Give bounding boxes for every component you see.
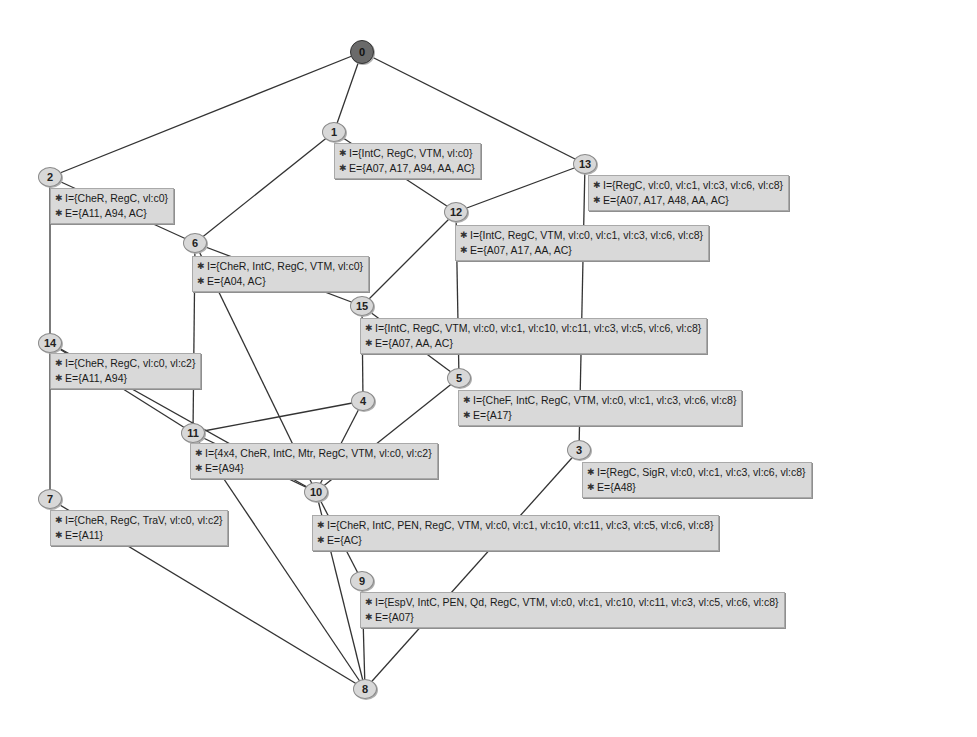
intent-text: I={CheR, IntC, RegC, VTM, vl:c0}	[207, 259, 363, 274]
extent-row: ✱E={A48}	[586, 480, 806, 495]
bug-icon: ✱	[364, 321, 373, 336]
concept-label-9[interactable]: ✱I={EspV, IntC, PEN, Qd, RegC, VTM, vl:c…	[360, 592, 785, 628]
intent-text: I={CheR, IntC, PEN, RegC, VTM, vl:c0, vl…	[327, 518, 713, 533]
bug-icon: ✱	[54, 528, 63, 543]
intent-text: I={IntC, RegC, VTM, vl:c0, vl:c1, vl:c3,…	[470, 228, 703, 243]
extent-text: E={A04, AC}	[207, 274, 266, 289]
concept-label-11[interactable]: ✱I={4x4, CheR, IntC, Mtr, RegC, VTM, vl:…	[190, 443, 438, 479]
extent-row: ✱E={A94}	[194, 461, 432, 476]
concept-label-7[interactable]: ✱I={CheR, RegC, TraV, vl:c0, vl:c2}✱E={A…	[50, 510, 228, 546]
intent-row: ✱I={IntC, RegC, VTM, vl:c0}	[338, 146, 475, 161]
concept-label-13[interactable]: ✱I={RegC, vl:c0, vl:c1, vl:c3, vl:c6, vl…	[588, 175, 789, 211]
intent-text: I={CheR, RegC, TraV, vl:c0, vl:c2}	[65, 513, 222, 528]
bug-icon: ✱	[194, 461, 203, 476]
intent-text: I={IntC, RegC, VTM, vl:c0}	[349, 146, 472, 161]
extent-text: E={A94}	[205, 461, 244, 476]
lattice-diagram: ✱I={IntC, RegC, VTM, vl:c0}✱E={A07, A17,…	[0, 0, 977, 737]
concept-label-1[interactable]: ✱I={IntC, RegC, VTM, vl:c0}✱E={A07, A17,…	[334, 143, 481, 179]
concept-label-5[interactable]: ✱I={CheF, IntC, RegC, VTM, vl:c0, vl:c1,…	[458, 390, 742, 426]
concept-label-12[interactable]: ✱I={IntC, RegC, VTM, vl:c0, vl:c1, vl:c3…	[455, 225, 709, 261]
bug-icon: ✱	[316, 533, 325, 548]
bug-icon: ✱	[54, 356, 63, 371]
concept-label-15[interactable]: ✱I={IntC, RegC, VTM, vl:c0, vl:c1, vl:c1…	[360, 318, 707, 354]
intent-row: ✱I={CheR, IntC, RegC, VTM, vl:c0}	[196, 259, 363, 274]
extent-row: ✱E={A11, A94}	[54, 371, 195, 386]
bug-icon: ✱	[364, 610, 373, 625]
lattice-node-13[interactable]: 13	[573, 154, 597, 174]
extent-text: E={A11}	[65, 528, 103, 543]
bug-icon: ✱	[592, 178, 601, 193]
intent-row: ✱I={EspV, IntC, PEN, Qd, RegC, VTM, vl:c…	[364, 595, 779, 610]
intent-row: ✱I={CheR, RegC, vl:c0}	[54, 191, 168, 206]
extent-text: E={A07, A17, A94, AA, AC}	[349, 161, 475, 176]
bug-icon: ✱	[364, 336, 373, 351]
bug-icon: ✱	[462, 408, 471, 423]
intent-text: I={CheR, RegC, vl:c0, vl:c2}	[65, 356, 195, 371]
extent-row: ✱E={A11, A94, AC}	[54, 206, 168, 221]
extent-row: ✱E={A07, A17, A48, AA, AC}	[592, 193, 783, 208]
edge-0-1	[334, 52, 362, 132]
extent-row: ✱E={A07, AA, AC}	[364, 336, 701, 351]
extent-text: E={A48}	[597, 480, 636, 495]
lattice-node-5[interactable]: 5	[447, 368, 471, 388]
lattice-node-11[interactable]: 11	[181, 423, 205, 443]
concept-label-6[interactable]: ✱I={CheR, IntC, RegC, VTM, vl:c0}✱E={A04…	[192, 256, 369, 292]
extent-row: ✱E={AC}	[316, 533, 713, 548]
concept-label-3[interactable]: ✱I={RegC, SigR, vl:c0, vl:c1, vl:c3, vl:…	[582, 462, 812, 498]
lattice-node-6[interactable]: 6	[183, 233, 207, 253]
lattice-node-1[interactable]: 1	[322, 122, 346, 142]
concept-label-2[interactable]: ✱I={CheR, RegC, vl:c0}✱E={A11, A94, AC}	[50, 188, 174, 224]
lattice-node-3[interactable]: 3	[567, 440, 591, 460]
intent-text: I={IntC, RegC, VTM, vl:c0, vl:c1, vl:c10…	[375, 321, 701, 336]
lattice-node-10[interactable]: 10	[304, 482, 328, 502]
intent-row: ✱I={CheR, RegC, TraV, vl:c0, vl:c2}	[54, 513, 222, 528]
concept-label-14[interactable]: ✱I={CheR, RegC, vl:c0, vl:c2}✱E={A11, A9…	[50, 353, 201, 389]
bug-icon: ✱	[338, 161, 347, 176]
lattice-node-4[interactable]: 4	[351, 391, 375, 411]
extent-text: E={A17}	[473, 408, 512, 423]
bug-icon: ✱	[194, 446, 203, 461]
extent-text: E={A11, A94}	[65, 371, 127, 386]
bug-icon: ✱	[586, 480, 595, 495]
lattice-node-9[interactable]: 9	[350, 571, 374, 591]
extent-text: E={A11, A94, AC}	[65, 206, 147, 221]
intent-row: ✱I={CheR, IntC, PEN, RegC, VTM, vl:c0, v…	[316, 518, 713, 533]
extent-text: E={A07, A17, AA, AC}	[470, 243, 572, 258]
extent-text: E={A07, A17, A48, AA, AC}	[603, 193, 729, 208]
edge-4-11	[193, 401, 363, 433]
bug-icon: ✱	[196, 259, 205, 274]
edge-1-6	[195, 132, 334, 243]
intent-text: I={CheR, RegC, vl:c0}	[65, 191, 168, 206]
lattice-node-2[interactable]: 2	[38, 167, 62, 187]
extent-row: ✱E={A04, AC}	[196, 274, 363, 289]
bug-icon: ✱	[196, 274, 205, 289]
intent-text: I={4x4, CheR, IntC, Mtr, RegC, VTM, vl:c…	[205, 446, 432, 461]
bug-icon: ✱	[586, 465, 595, 480]
lattice-node-7[interactable]: 7	[38, 489, 62, 509]
extent-row: ✱E={A07, A17, A94, AA, AC}	[338, 161, 475, 176]
concept-label-10[interactable]: ✱I={CheR, IntC, PEN, RegC, VTM, vl:c0, v…	[312, 515, 719, 551]
extent-row: ✱E={A17}	[462, 408, 736, 423]
intent-text: I={EspV, IntC, PEN, Qd, RegC, VTM, vl:c0…	[375, 595, 779, 610]
lattice-node-0[interactable]: 0	[350, 40, 374, 64]
intent-row: ✱I={IntC, RegC, VTM, vl:c0, vl:c1, vl:c3…	[459, 228, 703, 243]
lattice-node-8[interactable]: 8	[353, 679, 377, 699]
lattice-node-12[interactable]: 12	[444, 202, 468, 222]
bug-icon: ✱	[459, 243, 468, 258]
extent-row: ✱E={A07}	[364, 610, 779, 625]
intent-text: I={RegC, vl:c0, vl:c1, vl:c3, vl:c6, vl:…	[603, 178, 783, 193]
bug-icon: ✱	[54, 206, 63, 221]
bug-icon: ✱	[54, 191, 63, 206]
edge-0-2	[50, 52, 362, 177]
intent-text: I={CheF, IntC, RegC, VTM, vl:c0, vl:c1, …	[473, 393, 736, 408]
intent-row: ✱I={CheF, IntC, RegC, VTM, vl:c0, vl:c1,…	[462, 393, 736, 408]
bug-icon: ✱	[459, 228, 468, 243]
edge-12-15	[362, 212, 456, 306]
lattice-node-15[interactable]: 15	[350, 296, 374, 316]
bug-icon: ✱	[316, 518, 325, 533]
intent-row: ✱I={RegC, SigR, vl:c0, vl:c1, vl:c3, vl:…	[586, 465, 806, 480]
lattice-node-14[interactable]: 14	[38, 333, 62, 353]
edge-3-8	[365, 450, 579, 689]
bug-icon: ✱	[338, 146, 347, 161]
extent-row: ✱E={A07, A17, AA, AC}	[459, 243, 703, 258]
